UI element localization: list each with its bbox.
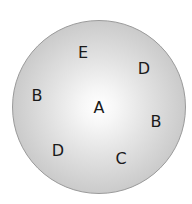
label-d-bottom-left: D (52, 143, 64, 159)
label-e: E (78, 45, 88, 61)
label-b-left: B (32, 88, 43, 104)
label-b-right: B (151, 114, 162, 130)
label-c: C (115, 151, 126, 167)
label-d-top-right: D (138, 61, 150, 77)
label-a-center: A (94, 100, 105, 116)
